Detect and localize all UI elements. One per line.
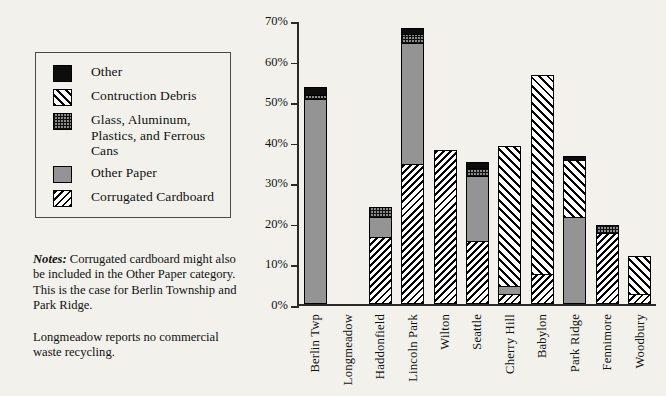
y-tick-mark: [291, 144, 299, 146]
legend-label-other: Other: [91, 64, 122, 80]
y-tick-mark: [291, 306, 299, 308]
stacked-bar-chart: 0%10%20%30%40%50%60%70% Berlin TwpLongme…: [258, 14, 656, 306]
bar-segment-other_paper: [402, 44, 423, 166]
y-tick-mark: [291, 22, 299, 24]
stacked-bar[interactable]: [401, 28, 424, 304]
x-axis-tick-label: Woodbury: [632, 314, 647, 368]
solid-black-swatch: [53, 65, 72, 82]
bar-segment-corrugated_cardboard: [629, 295, 650, 303]
y-tick-mark: [291, 184, 299, 186]
bar-segment-construction_debris: [499, 147, 520, 287]
x-axis-tick-label: Babylon: [535, 314, 550, 358]
y-tick-mark: [291, 225, 299, 227]
notes-keyword: Notes:: [33, 252, 67, 266]
bar-column[interactable]: [461, 20, 493, 304]
x-label-column: Wilton: [429, 314, 461, 396]
stacked-bar[interactable]: [596, 225, 619, 304]
y-tick-label: 40%: [248, 136, 288, 151]
bar-segment-corrugated_cardboard: [532, 275, 553, 303]
bar-segment-construction_debris: [532, 76, 553, 275]
legend-item-other: Other: [36, 64, 230, 82]
bar-column[interactable]: [591, 20, 623, 304]
chart-page: OtherContruction DebrisGlass, Aluminum, …: [0, 0, 666, 396]
y-tick-mark: [291, 265, 299, 267]
bar-segment-other_paper: [467, 177, 488, 242]
bars-area: [299, 20, 656, 304]
legend-item-glass: Glass, Aluminum, Plastics, and Ferrous C…: [36, 112, 230, 159]
bar-column[interactable]: [526, 20, 558, 304]
bar-segment-other: [305, 88, 326, 96]
stacked-bar[interactable]: [304, 87, 327, 304]
y-tick-label: 30%: [248, 176, 288, 191]
x-label-column: Lincoln Park: [396, 314, 428, 396]
stacked-bar[interactable]: [369, 207, 392, 304]
bar-segment-corrugated_cardboard: [435, 151, 456, 303]
notes-paragraph-1: Notes: Corrugated cardboard might also b…: [33, 252, 248, 314]
chart-legend: OtherContruction DebrisGlass, Aluminum, …: [35, 52, 231, 218]
x-axis-tick-label: Seattle: [470, 314, 485, 350]
bar-segment-corrugated_cardboard: [499, 295, 520, 303]
bar-segment-other_paper: [564, 218, 585, 303]
x-axis-tick-label: Berlin Twp: [308, 314, 323, 373]
bar-column[interactable]: [624, 20, 656, 304]
legend-label-corrugated_cardboard: Corrugated Cardboard: [91, 189, 214, 205]
x-axis-labels: Berlin TwpLongmeadowHaddonfieldLincoln P…: [299, 314, 656, 396]
y-tick-label: 70%: [248, 14, 288, 29]
legend-rows: OtherContruction DebrisGlass, Aluminum, …: [36, 53, 230, 207]
y-tick-label: 10%: [248, 257, 288, 272]
bar-segment-other_paper: [370, 218, 391, 238]
solid-gray-swatch: [53, 166, 72, 183]
stacked-bar[interactable]: [434, 150, 457, 304]
legend-label-glass: Glass, Aluminum, Plastics, and Ferrous C…: [91, 112, 230, 159]
x-axis-tick-label: Lincoln Park: [405, 314, 420, 382]
bar-segment-other_paper: [305, 100, 326, 303]
dotted-grid-swatch: [53, 113, 72, 130]
x-axis-tick-label: Wilton: [438, 314, 453, 350]
bar-column[interactable]: [429, 20, 461, 304]
bar-column[interactable]: [559, 20, 591, 304]
legend-label-other_paper: Other Paper: [91, 165, 157, 181]
x-label-column: Park Ridge: [559, 314, 591, 396]
y-tick-label: 50%: [248, 95, 288, 110]
x-label-column: Woodbury: [624, 314, 656, 396]
bar-column[interactable]: [331, 20, 363, 304]
notes-block: Notes: Corrugated cardboard might also b…: [33, 252, 248, 360]
y-tick-label: 0%: [248, 298, 288, 313]
notes-paragraph-2: Longmeadow reports no commercial waste r…: [33, 330, 248, 361]
bar-column[interactable]: [396, 20, 428, 304]
x-label-column: Longmeadow: [331, 314, 363, 396]
bar-segment-corrugated_cardboard: [370, 238, 391, 303]
bar-segment-corrugated_cardboard: [467, 242, 488, 303]
legend-item-other_paper: Other Paper: [36, 165, 230, 183]
stacked-bar[interactable]: [628, 256, 651, 305]
x-label-column: Babylon: [526, 314, 558, 396]
x-axis-tick-label: Longmeadow: [340, 314, 355, 385]
bar-column[interactable]: [494, 20, 526, 304]
bar-segment-construction_debris: [629, 257, 650, 296]
x-label-column: Fennimore: [591, 314, 623, 396]
legend-label-construction_debris: Contruction Debris: [91, 88, 197, 104]
bar-segment-construction_debris: [564, 161, 585, 218]
x-label-column: Cherry Hill: [494, 314, 526, 396]
stacked-bar[interactable]: [563, 156, 586, 304]
x-label-column: Haddonfield: [364, 314, 396, 396]
x-label-column: Seattle: [461, 314, 493, 396]
bar-column[interactable]: [299, 20, 331, 304]
bar-column[interactable]: [364, 20, 396, 304]
stacked-bar[interactable]: [466, 162, 489, 304]
legend-item-construction_debris: Contruction Debris: [36, 88, 230, 106]
bar-segment-glass: [467, 169, 488, 177]
stacked-bar[interactable]: [531, 75, 554, 304]
stacked-bar[interactable]: [498, 146, 521, 304]
y-tick-mark: [291, 63, 299, 65]
bar-segment-corrugated_cardboard: [597, 234, 618, 303]
y-tick-label: 60%: [248, 55, 288, 70]
y-tick-mark: [291, 103, 299, 105]
x-axis-tick-label: Fennimore: [600, 314, 615, 370]
bar-segment-glass: [597, 226, 618, 234]
x-axis-tick-label: Haddonfield: [373, 314, 388, 379]
x-axis-line: [297, 304, 656, 306]
bar-segment-glass: [370, 208, 391, 218]
dense-hatch-swatch: [53, 190, 72, 207]
legend-item-corrugated_cardboard: Corrugated Cardboard: [36, 189, 230, 207]
